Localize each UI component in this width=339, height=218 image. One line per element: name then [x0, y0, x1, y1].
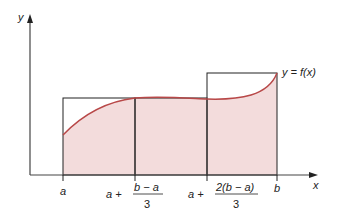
tick-label-b: b — [274, 182, 280, 194]
tick-label-a: a — [60, 185, 66, 197]
x-axis-arrow-icon — [309, 172, 318, 178]
tick-label-t2-denominator: 3 — [233, 198, 239, 210]
curve-label: y = f(x) — [281, 66, 316, 78]
y-axis-arrow-icon — [27, 14, 33, 23]
tick-label-t2-numerator: 2(b − a) — [215, 181, 255, 193]
tick-label-t2-prefix: a + — [188, 188, 204, 200]
y-axis-label: y — [17, 11, 25, 23]
riemann-sum-diagram: y x y = f(x) a a + b − a 3 a + 2(b − a) … — [0, 0, 339, 218]
tick-label-t1-numerator: b − a — [134, 181, 159, 193]
tick-label-t1-prefix: a + — [106, 188, 122, 200]
tick-label-t1-denominator: 3 — [144, 198, 150, 210]
area-under-curve — [63, 73, 277, 175]
x-axis-label: x — [312, 179, 319, 191]
